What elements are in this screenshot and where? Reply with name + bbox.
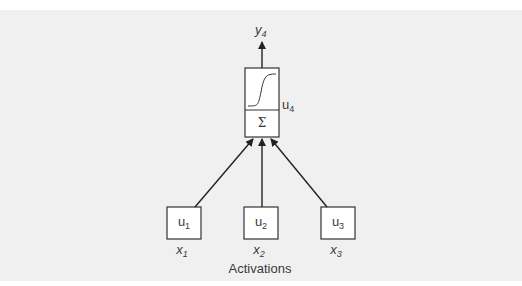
output-label-subscript: 4 <box>262 29 267 39</box>
connection-arrow-u1 <box>195 139 253 207</box>
activation-label-subscript: 3 <box>337 249 342 259</box>
connection-arrow-u3 <box>271 139 327 207</box>
neuron-label-subscript: 4 <box>289 104 294 114</box>
unit-label-subscript: 2 <box>262 221 267 231</box>
input-unit-label-u2: u2 <box>244 215 278 231</box>
input-unit-label-u3: u3 <box>321 215 355 231</box>
activations-caption: Activations <box>210 261 310 276</box>
activation-label-subscript: 2 <box>260 249 265 259</box>
activation-label-x2: x2 <box>242 243 276 259</box>
activation-label-x3: x3 <box>319 243 353 259</box>
activation-label-subscript: 1 <box>183 249 188 259</box>
output-label: y4 <box>255 23 267 39</box>
unit-label-subscript: 3 <box>339 221 344 231</box>
input-unit-label-u1: u1 <box>167 215 201 231</box>
summation-symbol: Σ <box>245 116 279 130</box>
neuron-label: u4 <box>282 98 294 114</box>
unit-label-subscript: 1 <box>185 221 190 231</box>
activation-label-x1: x1 <box>165 243 199 259</box>
